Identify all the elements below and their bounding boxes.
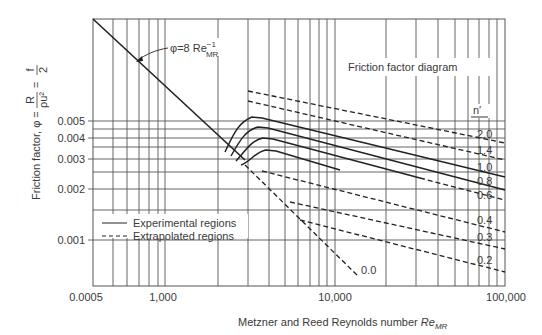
y-axis-label: Friction factor, φ = R ρu² = f 2 <box>24 65 49 200</box>
label-n-0.8: 0.8 <box>477 175 492 187</box>
series-2.0-line <box>248 91 505 143</box>
y-tick-0.003: 0.003 <box>57 153 85 165</box>
legend-solid-label: Experimental regions <box>133 217 237 229</box>
svg-text:2: 2 <box>37 67 49 73</box>
chart-title: Friction factor diagram <box>348 61 457 73</box>
label-n-0.6: 0.6 <box>477 189 492 201</box>
label-n-2.0: 2.0 <box>477 128 492 140</box>
svg-text:ρu²: ρu² <box>37 92 49 108</box>
friction-factor-chart: φ=8 Re−1MR Friction factor diagram n′ 2.… <box>0 0 542 335</box>
label-n-0.3: 0.3 <box>477 231 492 243</box>
series-1.4-line <box>248 101 505 160</box>
laminar-annotation: φ=8 Re−1MR <box>170 40 219 59</box>
y-axis-ticks <box>88 121 93 240</box>
x-tick-100000: 100,000 <box>486 291 526 303</box>
svg-text:=: = <box>30 82 42 88</box>
y-tick-0.004: 0.004 <box>57 132 85 144</box>
x-axis-label: Metzner and Reed Reynolds number ReMR <box>238 316 448 331</box>
label-n-1.0: 1.0 <box>477 161 492 173</box>
label-n-0.4: 0.4 <box>477 214 492 226</box>
svg-text:R: R <box>24 96 36 104</box>
label-n-0.2: 0.2 <box>477 254 492 266</box>
series-0.8-line <box>231 127 505 190</box>
n-prime-header: n′ <box>473 104 481 116</box>
laminar-annotation-arrow <box>138 48 168 60</box>
x-tick-10000: 10,000 <box>318 291 352 303</box>
series-0.2-line <box>300 220 505 272</box>
svg-text:Friction factor, φ =: Friction factor, φ = <box>30 111 42 200</box>
y-tick-0.001: 0.001 <box>57 234 85 246</box>
series-0.3-line <box>290 202 505 249</box>
x-tick-1000: 1,000 <box>149 291 177 303</box>
legend-dashed-label: Extrapolated regions <box>133 230 234 242</box>
x-tick-0.0005: 0.0005 <box>69 291 103 303</box>
svg-text:f: f <box>24 68 36 72</box>
y-tick-0.002: 0.002 <box>57 183 85 195</box>
label-n-1.4: 1.4 <box>477 144 492 156</box>
y-tick-0.005: 0.005 <box>57 115 85 127</box>
label-n-0.0: 0.0 <box>361 264 376 276</box>
